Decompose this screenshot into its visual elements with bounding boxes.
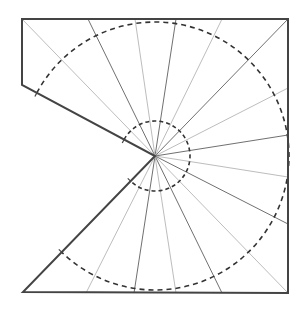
outer-dashed-circle xyxy=(37,22,289,290)
dashed-circles xyxy=(37,22,289,290)
cone-net-diagram xyxy=(0,0,303,313)
radial-line xyxy=(155,19,288,156)
